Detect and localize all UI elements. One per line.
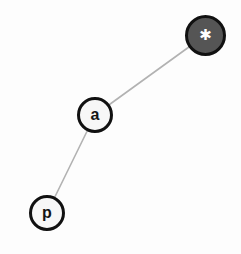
asterisk-star-icon: ✱ bbox=[199, 28, 212, 43]
graph-node-star[interactable]: ✱ bbox=[185, 15, 226, 56]
letter-a-node: a bbox=[91, 107, 100, 123]
graph-node-p[interactable]: p bbox=[29, 195, 65, 231]
graph-node-a[interactable]: a bbox=[77, 97, 113, 133]
letter-p-node: p bbox=[42, 205, 52, 221]
graph-canvas: ✱ap bbox=[0, 0, 241, 254]
